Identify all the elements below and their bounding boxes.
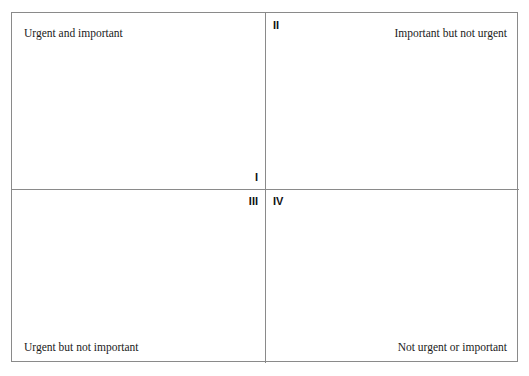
priority-matrix-diagram: Urgent and important I Important but not… [0, 0, 529, 376]
quadrant-label-q2: Important but not urgent [394, 26, 507, 40]
quadrant-important-but-not-urgent: Important but not urgent II [266, 13, 519, 189]
quadrant-numeral-q2: II [273, 19, 279, 31]
quadrant-urgent-but-not-important: Urgent but not important III [12, 190, 265, 366]
quadrant-label-q3: Urgent but not important [24, 340, 138, 354]
quadrant-numeral-q1: I [255, 171, 258, 183]
matrix-frame: Urgent and important I Important but not… [11, 12, 518, 362]
quadrant-label-q1: Urgent and important [24, 26, 123, 40]
quadrant-not-urgent-or-important: Not urgent or important IV [266, 190, 519, 366]
quadrant-label-q4: Not urgent or important [398, 340, 507, 354]
quadrant-numeral-q3: III [249, 195, 258, 207]
quadrant-urgent-and-important: Urgent and important I [12, 13, 265, 189]
quadrant-numeral-q4: IV [273, 195, 283, 207]
